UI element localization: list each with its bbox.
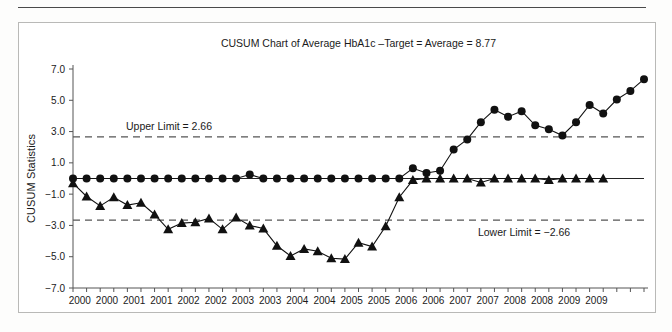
x-tick-label: 2005 bbox=[341, 295, 364, 306]
data-point-circle bbox=[232, 175, 240, 183]
x-tick-label: 2007 bbox=[449, 295, 472, 306]
data-point-circle bbox=[626, 87, 634, 95]
x-tick-label: 2000 bbox=[96, 295, 119, 306]
x-tick-label: 2007 bbox=[477, 295, 500, 306]
data-point-triangle bbox=[245, 220, 255, 229]
data-point-triangle bbox=[299, 244, 309, 253]
y-tick-label: 7.0 bbox=[51, 64, 65, 75]
data-point-circle bbox=[355, 175, 363, 183]
data-point-circle bbox=[259, 175, 267, 183]
y-tick-label: −7.0 bbox=[45, 283, 65, 294]
data-point-circle bbox=[178, 175, 186, 183]
x-tick-label: 2006 bbox=[395, 295, 418, 306]
data-point-circle bbox=[613, 96, 621, 104]
y-tick-label: −3.0 bbox=[45, 220, 65, 231]
data-point-circle bbox=[191, 175, 199, 183]
data-point-triangle bbox=[286, 251, 296, 260]
lower-limit-annotation: Lower Limit = −2.66 bbox=[478, 226, 570, 238]
data-point-triangle bbox=[231, 213, 241, 222]
x-tick-label: 2001 bbox=[150, 295, 173, 306]
data-point-circle bbox=[586, 101, 594, 109]
data-point-circle bbox=[477, 118, 485, 126]
data-point-circle bbox=[545, 125, 553, 133]
x-tick-label: 2000 bbox=[69, 295, 92, 306]
data-point-circle bbox=[409, 164, 417, 172]
x-tick-label: 2009 bbox=[585, 295, 608, 306]
chart-figure-frame: 7.05.03.01.0−1.0−3.0−5.0−7.0CUSUM Statis… bbox=[18, 22, 656, 313]
x-tick-label: 2008 bbox=[531, 295, 554, 306]
data-point-circle bbox=[518, 107, 526, 115]
data-point-circle bbox=[599, 110, 607, 118]
data-point-circle bbox=[83, 175, 91, 183]
data-point-triangle bbox=[95, 201, 105, 210]
data-point-circle bbox=[341, 175, 349, 183]
data-point-circle bbox=[640, 75, 648, 83]
x-tick-label: 2005 bbox=[368, 295, 391, 306]
data-point-circle bbox=[123, 175, 131, 183]
header-rule bbox=[18, 7, 646, 8]
data-point-circle bbox=[287, 175, 295, 183]
data-point-circle bbox=[395, 175, 403, 183]
data-point-triangle bbox=[354, 238, 364, 247]
data-point-circle bbox=[151, 175, 159, 183]
data-point-circle bbox=[300, 175, 308, 183]
chart-title: CUSUM Chart of Average HbA1c –Target = A… bbox=[221, 37, 496, 49]
y-tick-label: 3.0 bbox=[51, 126, 65, 137]
data-point-triangle bbox=[109, 192, 119, 201]
x-tick-label: 2002 bbox=[177, 295, 200, 306]
data-point-circle bbox=[531, 121, 539, 129]
data-point-circle bbox=[558, 131, 566, 139]
data-point-circle bbox=[96, 175, 104, 183]
data-point-circle bbox=[382, 175, 390, 183]
y-tick-label: 1.0 bbox=[51, 157, 65, 168]
data-point-circle bbox=[219, 175, 227, 183]
x-tick-label: 2004 bbox=[286, 295, 309, 306]
data-point-circle bbox=[327, 175, 335, 183]
data-point-circle bbox=[273, 175, 281, 183]
y-tick-label: 5.0 bbox=[51, 95, 65, 106]
data-point-triangle bbox=[204, 213, 214, 222]
data-point-triangle bbox=[326, 253, 336, 262]
y-tick-label: −5.0 bbox=[45, 251, 65, 262]
data-point-triangle bbox=[136, 198, 146, 207]
figure-page: 7.05.03.01.0−1.0−3.0−5.0−7.0CUSUM Statis… bbox=[0, 0, 672, 332]
x-tick-label: 2003 bbox=[259, 295, 282, 306]
data-point-circle bbox=[450, 146, 458, 154]
x-tick-label: 2006 bbox=[422, 295, 445, 306]
data-point-circle bbox=[504, 113, 512, 121]
data-point-triangle bbox=[381, 221, 391, 230]
data-point-circle bbox=[110, 175, 118, 183]
data-point-circle bbox=[572, 118, 580, 126]
x-tick-label: 2003 bbox=[232, 295, 255, 306]
data-point-circle bbox=[436, 167, 444, 175]
data-point-circle bbox=[164, 175, 172, 183]
x-tick-label: 2001 bbox=[123, 295, 146, 306]
data-point-circle bbox=[246, 171, 254, 179]
x-tick-label: 2002 bbox=[205, 295, 228, 306]
data-point-circle bbox=[463, 135, 471, 143]
data-point-circle bbox=[368, 175, 376, 183]
data-point-circle bbox=[490, 106, 498, 114]
x-tick-label: 2004 bbox=[313, 295, 336, 306]
data-point-circle bbox=[314, 175, 322, 183]
y-axis-title: CUSUM Statistics bbox=[25, 134, 37, 223]
upper-limit-annotation: Upper Limit = 2.66 bbox=[126, 120, 212, 132]
data-point-circle bbox=[137, 175, 145, 183]
x-tick-label: 2009 bbox=[558, 295, 581, 306]
data-point-circle bbox=[205, 175, 213, 183]
cusum-chart: 7.05.03.01.0−1.0−3.0−5.0−7.0CUSUM Statis… bbox=[19, 23, 655, 312]
series-line-cusum-lower bbox=[73, 179, 603, 260]
y-tick-label: −1.0 bbox=[45, 189, 65, 200]
x-tick-label: 2008 bbox=[504, 295, 527, 306]
